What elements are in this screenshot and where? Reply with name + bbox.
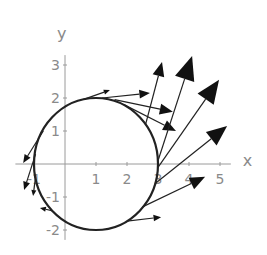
arrow-head <box>175 56 194 82</box>
x-tick-label: 1 <box>92 171 101 187</box>
arrow-head <box>139 90 150 99</box>
y-tick-label: -2 <box>46 222 60 238</box>
arrow-head <box>23 154 30 163</box>
vector-field-plot: x y -112345321-1-2 <box>0 0 267 255</box>
arrow-head <box>103 90 110 95</box>
arrow-head <box>159 104 173 115</box>
arrow-head <box>153 62 165 77</box>
y-tick-label: 1 <box>51 123 60 139</box>
arrow-shaft <box>146 76 159 125</box>
vector-arrow <box>115 100 173 115</box>
y-tick-label: 3 <box>51 57 60 73</box>
arrow-head <box>31 190 36 196</box>
y-tick-label: -1 <box>46 189 60 205</box>
chart-container: x y -112345321-1-2 <box>0 0 267 255</box>
x-tick-label: 2 <box>123 171 132 187</box>
arrow-head <box>40 207 46 212</box>
ticks: -112345321-1-2 <box>27 57 224 238</box>
arrow-shaft <box>102 94 139 98</box>
x-tick-label: 5 <box>216 171 225 187</box>
vector-arrow <box>102 90 150 99</box>
arrow-head <box>206 126 227 145</box>
y-tick-label: 2 <box>51 90 60 106</box>
y-axis-label: y <box>57 24 66 43</box>
arrow-head <box>153 215 161 221</box>
x-axis-label: x <box>243 151 252 170</box>
arrow-head <box>198 80 220 105</box>
